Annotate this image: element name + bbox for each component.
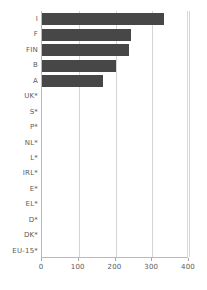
bar-row	[42, 11, 187, 27]
bar-A	[42, 75, 103, 87]
y-tick-label: A	[0, 73, 38, 89]
x-tick-mark	[188, 258, 189, 261]
y-tick-label: EU-15*	[0, 243, 38, 259]
x-tick-label: 0	[39, 263, 44, 271]
bar-row	[42, 26, 187, 42]
x-tick-mark	[115, 258, 116, 261]
bar-row	[42, 212, 187, 228]
bar-row	[42, 57, 187, 73]
x-tick-mark	[41, 258, 42, 261]
y-tick-label: IRL*	[0, 165, 38, 181]
bar-row	[42, 150, 187, 166]
bar-row	[42, 165, 187, 181]
bar-row	[42, 88, 187, 104]
bar-row	[42, 181, 187, 197]
bar-row	[42, 42, 187, 58]
bar-B	[42, 60, 116, 72]
x-tick-mark	[78, 258, 79, 261]
bar-row	[42, 196, 187, 212]
bar-FIN	[42, 44, 129, 56]
x-tick-label: 200	[108, 263, 122, 271]
y-tick-label: FIN	[0, 42, 38, 58]
bar-row	[42, 227, 187, 243]
y-axis-labels: IFFINBAUK*S*P*NL*L*IRL*E*EL*D*DK*EU-15*	[0, 11, 38, 258]
y-tick-label: S*	[0, 104, 38, 120]
y-tick-label: EL*	[0, 196, 38, 212]
y-tick-label: D*	[0, 212, 38, 228]
y-tick-label: P*	[0, 119, 38, 135]
bar-chart: IFFINBAUK*S*P*NL*L*IRL*E*EL*D*DK*EU-15* …	[0, 0, 207, 290]
bar-I	[42, 13, 164, 25]
gridline-400	[189, 11, 190, 257]
y-tick-label: DK*	[0, 227, 38, 243]
y-tick-label: I	[0, 11, 38, 27]
y-tick-label: E*	[0, 181, 38, 197]
bar-row	[42, 119, 187, 135]
x-tick-mark	[151, 258, 152, 261]
bar-F	[42, 29, 131, 41]
y-tick-label: F	[0, 26, 38, 42]
bars-layer	[42, 11, 187, 257]
plot-area	[41, 11, 188, 258]
x-tick-label: 400	[181, 263, 195, 271]
y-tick-label: UK*	[0, 88, 38, 104]
x-tick-label: 100	[71, 263, 85, 271]
y-tick-label: NL*	[0, 135, 38, 151]
y-tick-label: B	[0, 57, 38, 73]
x-tick-label: 300	[144, 263, 158, 271]
bar-row	[42, 73, 187, 89]
bar-row	[42, 104, 187, 120]
y-tick-label: L*	[0, 150, 38, 166]
bar-row	[42, 135, 187, 151]
bar-row	[42, 243, 187, 259]
